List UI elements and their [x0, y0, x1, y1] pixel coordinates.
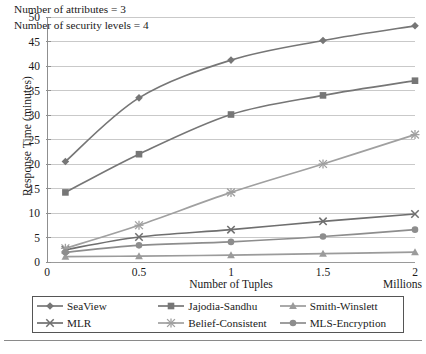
y-tick-mark — [46, 237, 51, 238]
chart-legend: SeaViewJajodia-SandhuSmith-WinslettMLRBe… — [32, 296, 404, 333]
data-point-circle — [136, 242, 143, 249]
series-belief-consistent — [61, 130, 420, 253]
x-axis-units: Millions — [383, 278, 422, 290]
data-point-square — [168, 303, 175, 310]
legend-marker-star-icon — [158, 317, 184, 329]
data-point-square — [320, 92, 327, 99]
legend-item-mls-encryption[interactable]: MLS-Encryption — [280, 317, 401, 329]
y-tick-mark — [46, 115, 51, 116]
y-tick-label-25: 25 — [29, 134, 41, 146]
data-point-square — [228, 111, 235, 118]
data-point-diamond — [46, 302, 54, 310]
data-point-square — [62, 189, 69, 196]
series-lines — [47, 17, 415, 262]
legend-label: MLS-Encryption — [309, 317, 386, 329]
y-tick-label-15: 15 — [29, 183, 41, 195]
y-tick-mark — [46, 139, 51, 140]
data-point-circle — [228, 239, 235, 246]
data-point-circle — [320, 233, 327, 240]
data-point-star — [167, 318, 176, 327]
y-tick-label-5: 5 — [34, 232, 40, 244]
y-tick-label-30: 30 — [29, 109, 41, 121]
data-point-circle — [412, 226, 419, 233]
data-point-star — [319, 160, 328, 169]
y-tick-mark — [46, 66, 51, 67]
y-tick-label-40: 40 — [29, 60, 41, 72]
y-tick-mark — [46, 41, 51, 42]
y-tick-label-20: 20 — [29, 158, 41, 170]
legend-label: Jajodia-Sandhu — [187, 300, 257, 312]
y-tick-mark — [46, 262, 51, 263]
annotation-line-2: Number of security levels = 4 — [14, 18, 149, 34]
legend-marker-diamond-icon — [37, 300, 63, 312]
y-tick-label-35: 35 — [29, 85, 41, 97]
data-point-square — [412, 77, 419, 84]
legend-label: SeaView — [66, 300, 107, 312]
x-tick-label-0: 0 — [44, 266, 50, 278]
legend-marker-square-icon — [158, 300, 184, 312]
plot-area: 0510152025303540455000.511.52 — [47, 17, 415, 262]
data-point-circle — [62, 249, 69, 256]
legend-item-smith-winslett[interactable]: Smith-Winslett — [280, 300, 401, 312]
series-jajodia-sandhu — [62, 77, 418, 195]
legend-marker-triangle-icon — [280, 300, 306, 312]
y-tick-mark — [46, 164, 51, 165]
x-tick-label-1.5: 1.5 — [316, 266, 330, 278]
y-tick-label-10: 10 — [29, 207, 41, 219]
plot-annotation: Number of attributes = 3 Number of secur… — [14, 2, 149, 33]
data-point-circle — [289, 319, 296, 326]
legend-item-belief-consistent[interactable]: Belief-Consistent — [158, 317, 279, 329]
legend-marker-circle-icon — [280, 317, 306, 329]
data-point-star — [411, 130, 420, 139]
chart-figure: Response Time (minutes) 0510152025303540… — [0, 0, 426, 354]
series-smith-winslett — [62, 248, 419, 259]
x-tick-label-2: 2 — [412, 266, 418, 278]
y-tick-label-45: 45 — [29, 36, 41, 48]
footer-divider — [4, 340, 422, 341]
y-tick-label-0: 0 — [34, 256, 40, 268]
legend-label: Smith-Winslett — [309, 300, 378, 312]
data-point-star — [135, 221, 144, 230]
legend-label: Belief-Consistent — [187, 317, 266, 329]
y-tick-mark — [46, 90, 51, 91]
legend-item-seaview[interactable]: SeaView — [37, 300, 158, 312]
x-tick-label-0.5: 0.5 — [132, 266, 146, 278]
legend-item-jajodia-sandhu[interactable]: Jajodia-Sandhu — [158, 300, 279, 312]
annotation-line-1: Number of attributes = 3 — [14, 2, 149, 18]
data-point-square — [136, 151, 143, 158]
data-point-star — [227, 188, 236, 197]
legend-label: MLR — [66, 317, 91, 329]
x-tick-label-1: 1 — [228, 266, 234, 278]
x-axis-title: Number of Tuples — [47, 278, 415, 290]
legend-marker-cross-icon — [37, 317, 63, 329]
y-tick-mark — [46, 188, 51, 189]
legend-item-mlr[interactable]: MLR — [37, 317, 158, 329]
data-point-diamond — [227, 56, 235, 64]
data-point-diamond — [411, 22, 419, 30]
series-seaview — [62, 22, 419, 165]
data-point-diamond — [319, 37, 327, 45]
y-tick-mark — [46, 213, 51, 214]
